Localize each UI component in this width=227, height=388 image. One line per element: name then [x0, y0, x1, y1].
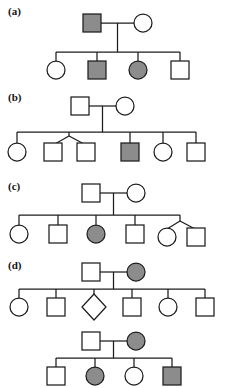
individual-circle-unaffected[interactable] — [154, 143, 172, 161]
pedigree-figure: (a) (b) — [0, 0, 227, 388]
individual-square-unaffected[interactable] — [123, 298, 141, 316]
individual-circle-affected[interactable] — [87, 225, 105, 243]
panel-b: (b) — [0, 88, 227, 176]
individual-square-unaffected[interactable] — [71, 97, 89, 115]
panel-d-diagram — [0, 256, 227, 388]
individual-circle-unaffected[interactable] — [47, 61, 65, 79]
individual-circle-affected[interactable] — [86, 367, 104, 385]
individual-square-unaffected-spouse[interactable] — [187, 228, 205, 246]
individual-square-unaffected-twin[interactable] — [77, 143, 95, 161]
individual-square-affected[interactable] — [121, 143, 139, 161]
individual-square-affected[interactable] — [163, 367, 181, 385]
individual-diamond-unknown-sex[interactable] — [82, 294, 106, 320]
individual-square-unaffected[interactable] — [82, 332, 100, 350]
individual-circle-unaffected[interactable] — [158, 228, 176, 246]
individual-circle-unaffected[interactable] — [10, 225, 28, 243]
individual-square-unaffected[interactable] — [126, 225, 144, 243]
individual-circle-affected[interactable] — [127, 263, 145, 281]
individual-square-affected[interactable] — [88, 61, 106, 79]
panel-d: (d) — [0, 256, 227, 388]
individual-square-unaffected-twin[interactable] — [44, 143, 62, 161]
individual-square-unaffected[interactable] — [171, 61, 189, 79]
individual-square-unaffected[interactable] — [82, 184, 100, 202]
individual-circle-affected[interactable] — [127, 332, 145, 350]
individual-square-unaffected[interactable] — [196, 298, 214, 316]
panel-c: (c) — [0, 176, 227, 256]
individual-circle-unaffected[interactable] — [125, 367, 143, 385]
individual-circle-unaffected[interactable] — [10, 298, 28, 316]
individual-circle-unaffected[interactable] — [127, 184, 145, 202]
individual-circle-unaffected[interactable] — [134, 14, 152, 32]
individual-circle-affected[interactable] — [129, 61, 147, 79]
individual-circle-unaffected[interactable] — [116, 97, 134, 115]
individual-square-unaffected[interactable] — [49, 225, 67, 243]
panel-a-diagram — [0, 0, 227, 88]
panel-c-diagram — [0, 176, 227, 256]
panel-a: (a) — [0, 0, 227, 88]
individual-square-unaffected[interactable] — [47, 367, 65, 385]
individual-circle-unaffected[interactable] — [159, 298, 177, 316]
individual-square-unaffected[interactable] — [82, 263, 100, 281]
panel-b-diagram — [0, 88, 227, 176]
individual-square-unaffected[interactable] — [47, 298, 65, 316]
individual-circle-unaffected[interactable] — [8, 143, 26, 161]
individual-square-unaffected[interactable] — [187, 143, 205, 161]
individual-square-affected[interactable] — [83, 14, 101, 32]
